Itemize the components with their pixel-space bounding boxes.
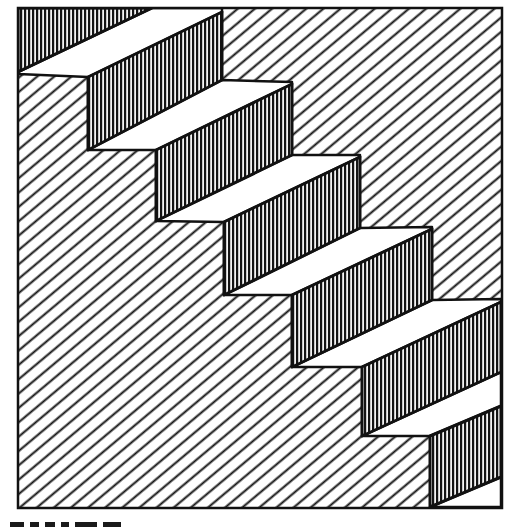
figure-content — [18, 8, 503, 508]
figure-caption-cut-off — [10, 522, 330, 527]
staircase-figure — [0, 0, 518, 527]
